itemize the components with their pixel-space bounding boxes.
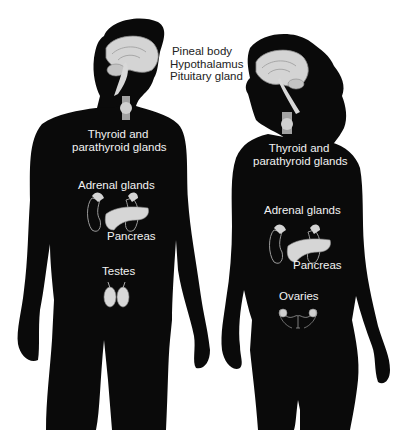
label-pituitary-gland: Pituitary gland	[170, 70, 234, 83]
female-thyroid	[281, 112, 293, 134]
male-pancreas-label: Pancreas	[107, 230, 156, 243]
male-testes-label: Testes	[102, 265, 135, 278]
label-hypothalamus: Hypothalamus	[170, 58, 234, 71]
female-thyroid-label: Thyroid and parathyroid glands	[253, 142, 345, 167]
male-thyroid-label: Thyroid and parathyroid glands	[72, 128, 164, 153]
center-label: Pineal body Hypothalamus Pituitary gland	[170, 45, 234, 83]
label-pineal-body: Pineal body	[170, 45, 234, 58]
male-adrenal-label: Adrenal glands	[78, 179, 155, 192]
female-adrenal-label: Adrenal glands	[264, 204, 341, 217]
female-pancreas-label: Pancreas	[293, 259, 342, 272]
female-ovaries-label: Ovaries	[279, 290, 319, 303]
female-silhouette	[221, 34, 390, 430]
